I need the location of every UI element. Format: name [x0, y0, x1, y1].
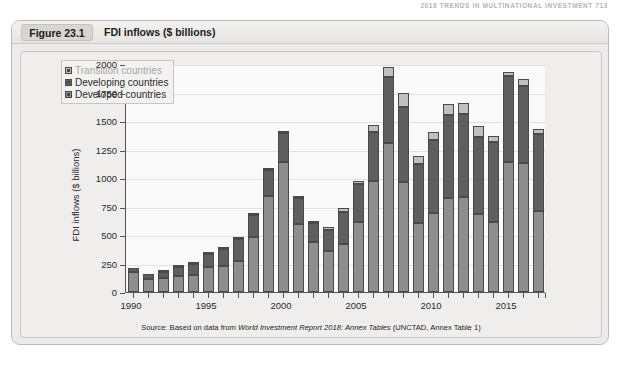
- x-tick-mark: [448, 293, 449, 298]
- x-tick-label: 1990: [121, 300, 142, 311]
- bar-segment: [383, 143, 394, 292]
- bar-segment: [233, 239, 244, 261]
- figure-title: FDI inflows ($ billions): [104, 25, 215, 40]
- bar-column[interactable]: [398, 64, 409, 292]
- bar-segment: [203, 254, 214, 267]
- legend-swatch-icon: [65, 67, 72, 74]
- bar-segment: [218, 266, 229, 292]
- bar-segment: [128, 268, 139, 272]
- x-tick-mark: [193, 293, 194, 298]
- bar-segment: [503, 162, 514, 292]
- bar-column[interactable]: [218, 64, 229, 292]
- bar-segment: [173, 265, 184, 267]
- bar-column[interactable]: [458, 64, 469, 292]
- bar-segment: [323, 230, 334, 251]
- x-tick-label: 2005: [346, 300, 367, 311]
- bar-column[interactable]: [338, 64, 349, 292]
- bar-column[interactable]: [203, 64, 214, 292]
- bar-column[interactable]: [533, 64, 544, 292]
- bar-segment: [338, 244, 349, 292]
- y-tick-label: 250: [79, 260, 117, 269]
- bar-segment: [518, 79, 529, 87]
- bar-segment: [473, 214, 484, 292]
- bar-segment: [128, 272, 139, 292]
- bar-segment: [533, 129, 544, 134]
- running-head: 2018 TRENDS IN MULTINATIONAL INVESTMENT …: [420, 1, 608, 8]
- bar-column[interactable]: [503, 64, 514, 292]
- bar-column[interactable]: [293, 64, 304, 292]
- y-tick-mark: [120, 122, 125, 123]
- bar-column[interactable]: [308, 64, 319, 292]
- y-tick-label: 1500: [79, 117, 117, 126]
- bar-column[interactable]: [323, 64, 334, 292]
- x-tick-mark: [313, 293, 314, 298]
- y-axis-title: FDI inflows ($ billions): [70, 148, 81, 241]
- bar-column[interactable]: [278, 64, 289, 292]
- bar-segment: [518, 86, 529, 162]
- bar-segment: [248, 237, 259, 292]
- bar-segment: [428, 140, 439, 213]
- bar-segment: [353, 222, 364, 292]
- x-tick-label: 2015: [496, 300, 517, 311]
- bar-column[interactable]: [518, 64, 529, 292]
- bar-segment: [458, 103, 469, 113]
- bar-column[interactable]: [413, 64, 424, 292]
- bar-column[interactable]: [188, 64, 199, 292]
- bar-segment: [368, 181, 379, 292]
- bar-segment: [248, 213, 259, 215]
- bar-segment: [263, 170, 274, 195]
- y-tick-mark: [120, 293, 125, 294]
- bar-segment: [158, 272, 169, 278]
- bar-segment: [533, 134, 544, 210]
- y-tick-label: 500: [79, 231, 117, 240]
- bar-segment: [323, 251, 334, 292]
- bar-column[interactable]: [428, 64, 439, 292]
- bar-segment: [488, 136, 499, 142]
- bar-segment: [488, 142, 499, 222]
- chart-plot-wrapper: FDI inflows ($ billions) Transition coun…: [21, 52, 601, 337]
- bar-segment: [173, 276, 184, 292]
- bar-segment: [278, 131, 289, 133]
- bar-segment: [143, 274, 154, 279]
- x-tick-label: 2000: [271, 300, 292, 311]
- bar-segment: [293, 224, 304, 293]
- legend-item[interactable]: Developing countries: [65, 76, 168, 88]
- bar-segment: [473, 126, 484, 137]
- plot-area: [125, 65, 545, 293]
- bar-segment: [503, 72, 514, 76]
- x-tick-label: 2010: [421, 300, 442, 311]
- bar-segment: [248, 215, 259, 237]
- bar-segment: [413, 164, 424, 223]
- bar-column[interactable]: [383, 64, 394, 292]
- bar-column[interactable]: [233, 64, 244, 292]
- x-tick-label: 1995: [196, 300, 217, 311]
- bar-column[interactable]: [488, 64, 499, 292]
- bar-column[interactable]: [368, 64, 379, 292]
- x-tick-mark: [463, 293, 464, 298]
- source-note: Source: Based on data from World Investm…: [21, 323, 601, 332]
- x-tick-mark: [478, 293, 479, 298]
- bar-column[interactable]: [443, 64, 454, 292]
- bar-column[interactable]: [173, 64, 184, 292]
- bar-segment: [428, 213, 439, 292]
- bar-column[interactable]: [353, 64, 364, 292]
- y-tick-mark: [120, 151, 125, 152]
- bar-segment: [398, 93, 409, 107]
- bar-segment: [368, 125, 379, 132]
- y-tick-mark: [120, 94, 125, 95]
- x-tick-mark: [178, 293, 179, 298]
- bar-column[interactable]: [263, 64, 274, 292]
- legend-item-label: Developing countries: [75, 77, 168, 88]
- bar-column[interactable]: [248, 64, 259, 292]
- x-tick-mark: [163, 293, 164, 298]
- chart-legend: Transition countriesDeveloping countries…: [61, 60, 174, 104]
- bar-segment: [413, 223, 424, 292]
- bar-segment: [443, 115, 454, 198]
- x-tick-mark: [223, 293, 224, 298]
- bar-segment: [383, 77, 394, 142]
- x-tick-mark: [493, 293, 494, 298]
- x-tick-mark: [208, 293, 209, 298]
- figure-number-badge: Figure 23.1: [21, 24, 93, 41]
- x-tick-mark: [148, 293, 149, 298]
- bar-column[interactable]: [473, 64, 484, 292]
